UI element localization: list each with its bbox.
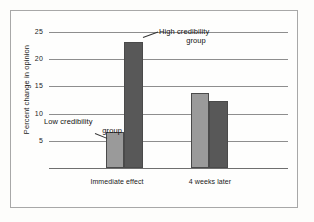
y-tick-label-15: 15 — [27, 82, 43, 89]
annotation-low-line1: Low credibility — [44, 117, 93, 126]
annotation-high-line1: High credibility — [159, 27, 209, 36]
annotation-high-credibility-group: High credibility group — [159, 27, 245, 45]
y-tick-label-5: 5 — [27, 137, 43, 144]
annotation-low-line2: group — [44, 126, 122, 135]
bar-high-credibility-immediate-effect[interactable] — [124, 42, 143, 168]
plot-area: Percent change in opinion 25 20 15 10 5 … — [11, 11, 297, 207]
y-axis-title: Percent change in opinion — [22, 31, 31, 149]
figure-frame: Percent change in opinion 25 20 15 10 5 … — [10, 10, 298, 208]
bar-low-credibility-immediate-effect[interactable] — [106, 132, 124, 168]
gridline-5 — [49, 141, 288, 142]
gridline-15 — [49, 86, 288, 87]
y-tick-label-20: 20 — [27, 55, 43, 62]
gridline-20 — [49, 59, 288, 60]
bar-high-credibility-4-weeks-later[interactable] — [209, 101, 228, 168]
bar-low-credibility-4-weeks-later[interactable] — [191, 93, 209, 168]
y-tick-label-10: 10 — [27, 110, 43, 117]
axis-baseline — [49, 168, 288, 169]
annotation-low-credibility-group: Low credibility group — [44, 117, 126, 135]
y-tick-label-25: 25 — [27, 28, 43, 35]
x-tick-label-4-weeks-later: 4 weeks later — [175, 178, 245, 185]
x-tick-label-immediate-effect: Immediate effect — [82, 178, 152, 185]
gridline-10 — [49, 114, 288, 115]
annotation-high-line2: group — [159, 36, 233, 45]
